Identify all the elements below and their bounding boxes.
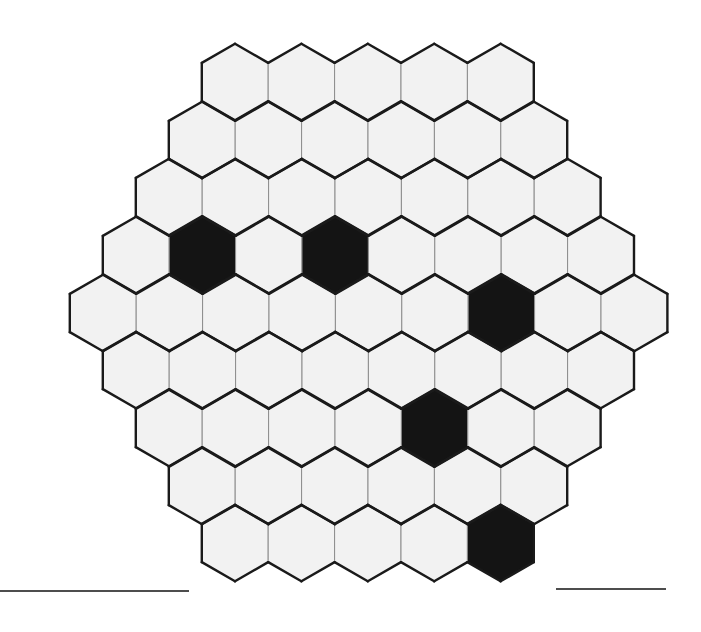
hex-cell-layer	[70, 44, 668, 582]
figure-canvas	[0, 0, 701, 632]
hex-grid-svg	[0, 0, 701, 632]
rule-line-layer	[0, 589, 666, 591]
